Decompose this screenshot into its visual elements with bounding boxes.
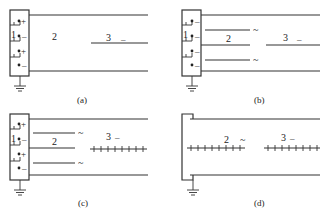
terminal-sign: – (194, 60, 200, 70)
terminal-sign: – (21, 134, 27, 144)
comb-electrode-3 (90, 146, 147, 152)
region3-label: 3 (106, 32, 111, 43)
ground-icon (187, 184, 199, 195)
region3-sign: – (289, 133, 295, 143)
terminal-dot (18, 35, 21, 38)
panel-a: + – + – 1 2 3 – (a) (10, 10, 148, 105)
ground-icon (186, 80, 198, 91)
region3-label: 3 (281, 132, 286, 143)
source-label: 1 (11, 29, 16, 40)
cell-icon (10, 125, 20, 129)
terminal-dot (18, 123, 21, 126)
terminal-sign: – (194, 31, 200, 41)
terminal-dot (18, 167, 21, 170)
terminal-sign: + (21, 119, 26, 129)
cell-icon (182, 53, 192, 57)
ac-sign: ~ (253, 24, 259, 35)
terminal-sign: – (194, 16, 200, 26)
region2-label: 2 (224, 134, 229, 145)
panel-b: – – – – 1 ~ 2 3 – ~ (b) (182, 10, 320, 105)
terminal-dot (191, 64, 194, 67)
region3-label: 3 (283, 32, 288, 43)
caption: (b) (254, 95, 265, 105)
caption: (c) (78, 198, 88, 208)
region3-sign: – (114, 132, 120, 142)
terminal-dot (191, 35, 194, 38)
comb-electrode-2 (187, 145, 245, 151)
terminal-sign: – (21, 163, 27, 173)
ac-sign: ~ (253, 54, 259, 65)
terminal-dot (191, 50, 194, 53)
figure: + – + – 1 2 3 – (a) – – – – 1 ~ 2 3 – (0, 0, 326, 215)
source-label: 1 (183, 29, 188, 40)
caption: (a) (77, 95, 87, 105)
terminal-dot (18, 20, 21, 23)
ground-icon (14, 80, 26, 91)
ac-sign: ~ (240, 134, 246, 145)
ac-sign: ~ (78, 157, 84, 168)
cell-icon (182, 21, 192, 25)
cell-icon (10, 53, 20, 57)
region2-label: 2 (52, 31, 57, 42)
terminal-dot (18, 138, 21, 141)
caption: (d) (254, 198, 265, 208)
terminal-sign: + (21, 16, 26, 26)
panel-d: 2 ~ 3 – (d) (182, 114, 320, 208)
cell-icon (10, 157, 20, 161)
ac-sign: ~ (78, 127, 84, 138)
panel-c: + – + – 1 ~ 2 ~ 3 – (c) (10, 114, 148, 208)
terminal-sign: – (194, 46, 200, 56)
terminal-sign: – (21, 31, 27, 41)
region2-label: 2 (52, 136, 57, 147)
ground-icon (14, 184, 26, 195)
comb-electrode-3 (264, 145, 320, 151)
terminal-dot (18, 64, 21, 67)
terminal-dot (18, 50, 21, 53)
region3-sign: – (296, 34, 302, 44)
terminal-sign: + (21, 149, 26, 159)
region2-label: 2 (226, 33, 231, 44)
terminal-dot (18, 153, 21, 156)
terminal-dot (191, 20, 194, 23)
source-label: 1 (11, 133, 16, 144)
terminal-sign: – (21, 60, 27, 70)
region3-label: 3 (106, 131, 111, 142)
terminal-sign: + (21, 46, 26, 56)
